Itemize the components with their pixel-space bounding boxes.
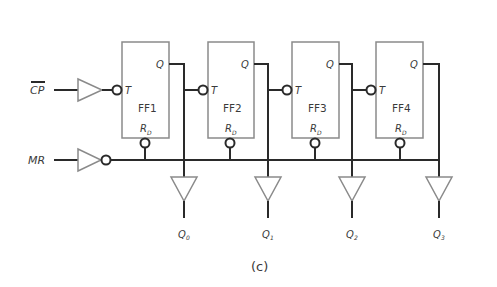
svg-text:D: D — [232, 129, 237, 136]
svg-text:D: D — [402, 129, 407, 136]
svg-text:T: T — [125, 85, 132, 96]
svg-text:Q: Q — [156, 59, 164, 70]
output-q3: Q 3 — [426, 177, 452, 241]
svg-text:Q: Q — [178, 229, 186, 240]
svg-text:Q: Q — [433, 229, 441, 240]
svg-text:Q: Q — [410, 59, 418, 70]
ff4-label: FF4 — [392, 102, 411, 114]
inverter-bubble-icon — [102, 156, 111, 165]
clock-buffer-icon — [78, 79, 102, 101]
svg-text:D: D — [317, 129, 322, 136]
svg-text:T: T — [211, 85, 218, 96]
counter-circuit-diagram: CP MR T Q FF1 R D T Q FF2 R D — [0, 0, 497, 287]
clock-input-label: CP — [30, 84, 45, 97]
svg-text:R: R — [395, 123, 402, 134]
svg-text:Q: Q — [262, 229, 270, 240]
output-buffer-icon — [339, 177, 365, 201]
svg-text:T: T — [379, 85, 386, 96]
svg-text:2: 2 — [354, 234, 358, 241]
svg-text:D: D — [147, 129, 152, 136]
clock-input: CP — [30, 79, 113, 101]
output-q2: Q 2 — [339, 177, 365, 241]
flip-flop-ff3: T Q FF3 R D — [283, 42, 372, 177]
svg-text:R: R — [310, 123, 317, 134]
reset-inverter-icon — [78, 149, 101, 171]
output-buffer-icon — [255, 177, 281, 201]
svg-text:R: R — [225, 123, 232, 134]
flip-flop-ff2: T Q FF2 R D — [199, 42, 288, 177]
reset-input: MR — [28, 149, 439, 171]
output-buffer-icon — [426, 177, 452, 201]
figure-caption: (c) — [251, 259, 268, 274]
svg-text:R: R — [140, 123, 147, 134]
svg-text:0: 0 — [186, 234, 190, 241]
ff1-label: FF1 — [138, 102, 157, 114]
ff2-label: FF2 — [223, 102, 242, 114]
flip-flop-ff1: T Q FF1 R D — [113, 42, 204, 177]
reset-input-label: MR — [28, 154, 45, 167]
svg-text:T: T — [295, 85, 302, 96]
output-q1: Q 1 — [255, 177, 281, 241]
svg-text:Q: Q — [346, 229, 354, 240]
output-q0: Q 0 — [171, 177, 197, 241]
svg-text:1: 1 — [270, 234, 274, 241]
svg-text:Q: Q — [241, 59, 249, 70]
svg-text:3: 3 — [441, 234, 445, 241]
ff3-label: FF3 — [308, 102, 327, 114]
flip-flop-ff4: T Q FF4 R D — [367, 42, 440, 177]
svg-text:Q: Q — [326, 59, 334, 70]
output-buffer-icon — [171, 177, 197, 201]
